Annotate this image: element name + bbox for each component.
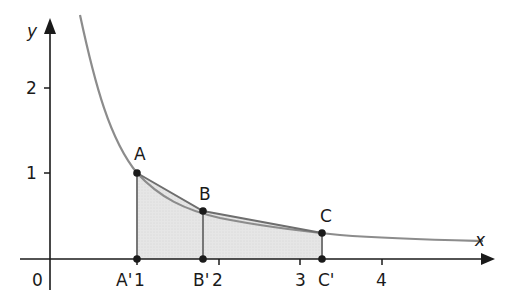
- point-a-prime: [133, 255, 141, 263]
- x-tick-label-1: 1: [134, 270, 145, 290]
- x-tick-label-2: 2: [212, 270, 223, 290]
- label-a: A: [134, 144, 146, 164]
- y-axis-arrow-icon: [44, 18, 56, 34]
- point-a: [133, 169, 141, 177]
- x-tick-label-3: 3: [295, 270, 306, 290]
- label-b-prime: B': [193, 270, 209, 290]
- point-c-prime: [318, 255, 326, 263]
- label-c: C: [320, 206, 332, 226]
- label-c-prime: C': [318, 270, 335, 290]
- x-axis-label: x: [474, 230, 486, 250]
- y-tick-label-1: 1: [26, 163, 37, 183]
- point-c: [318, 229, 326, 237]
- x-axis-arrow-icon: [481, 253, 495, 265]
- origin-label: 0: [32, 270, 43, 290]
- diagram-canvas: y x 0 1 2 A' 1 B' 2 3 C' 4 A B C: [0, 0, 509, 307]
- label-b: B: [199, 184, 211, 204]
- label-a-prime: A': [116, 270, 132, 290]
- point-b-prime: [199, 255, 207, 263]
- y-tick-label-2: 2: [26, 78, 37, 98]
- y-axis-label: y: [26, 21, 38, 41]
- point-b: [199, 207, 207, 215]
- x-tick-label-4: 4: [376, 270, 387, 290]
